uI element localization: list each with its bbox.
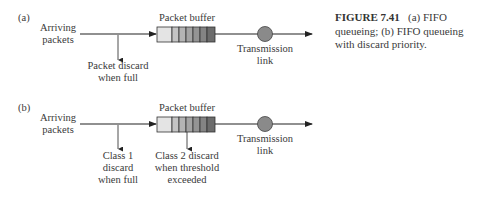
caption-line1: (a) FIFO — [408, 11, 447, 23]
packet-buffer-label-a: Packet buffer — [151, 12, 223, 24]
link-line1: Transmission — [230, 43, 300, 55]
arriving-line1: Arriving — [38, 112, 78, 124]
link-line2: link — [230, 55, 300, 67]
link-line1: Transmission — [230, 133, 300, 145]
packet-discard-label: Packet discard when full — [78, 60, 158, 84]
arriving-line2: packets — [38, 124, 78, 136]
class1-line3: when full — [93, 174, 143, 186]
arriving-packets-label-b: Arriving packets — [38, 112, 78, 136]
arriving-line1: Arriving — [38, 22, 78, 34]
transmission-link-label-b: Transmission link — [230, 133, 300, 157]
server-circle — [258, 27, 273, 42]
packet-buffer-label-b: Packet buffer — [151, 102, 223, 114]
class1-line1: Class 1 — [93, 150, 143, 162]
class2-discard-label: Class 2 discard when threshold exceeded — [147, 150, 227, 186]
figure-number: FIGURE 7.41 — [335, 11, 400, 23]
panel-a-label: (a) — [18, 12, 30, 24]
class1-line2: discard — [93, 162, 143, 174]
class2-line1: Class 2 discard — [147, 150, 227, 162]
packet-buffer — [157, 27, 215, 42]
panel-b-label: (b) — [18, 102, 30, 114]
arriving-line2: packets — [38, 34, 78, 46]
class2-line3: exceeded — [147, 174, 227, 186]
figure-caption: FIGURE 7.41 (a) FIFO queueing; (b) FIFO … — [335, 11, 495, 52]
packet-buffer — [157, 117, 215, 132]
arriving-packets-label-a: Arriving packets — [38, 22, 78, 46]
caption-line2: queueing; (b) FIFO queueing — [335, 25, 495, 39]
transmission-link-label-a: Transmission link — [230, 43, 300, 67]
discard-line2: when full — [78, 72, 158, 84]
caption-line3: with discard priority. — [335, 38, 495, 52]
class1-discard-label: Class 1 discard when full — [93, 150, 143, 186]
server-circle — [258, 117, 273, 132]
class2-line2: when threshold — [147, 162, 227, 174]
discard-line1: Packet discard — [78, 60, 158, 72]
link-line2: link — [230, 145, 300, 157]
